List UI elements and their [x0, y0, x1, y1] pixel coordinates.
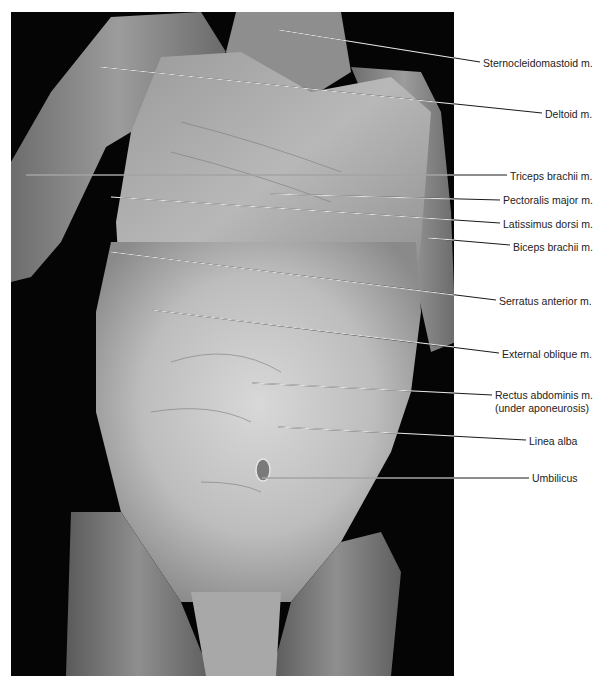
torso-illustration	[11, 12, 454, 676]
label-pectoralis-major: Pectoralis major m.	[503, 194, 593, 206]
label-linea-alba: Linea alba	[529, 435, 577, 447]
label-external-oblique: External oblique m.	[502, 348, 592, 360]
label-biceps-brachii: Biceps brachii m.	[513, 241, 593, 253]
label-rectus-abdominis: Rectus abdominis m.	[495, 389, 593, 401]
label-deltoid: Deltoid m.	[545, 108, 592, 120]
label-latissimus-dorsi: Latissimus dorsi m.	[503, 218, 593, 230]
label-triceps-brachii: Triceps brachii m.	[510, 170, 592, 182]
anatomy-figure: Sternocleidomastoid m. Deltoid m. Tricep…	[0, 0, 608, 685]
label-serratus-anterior: Serratus anterior m.	[499, 295, 592, 307]
umbilicus-mark	[256, 459, 270, 481]
dissection-photograph	[11, 12, 454, 676]
label-sternocleidomastoid: Sternocleidomastoid m.	[483, 57, 593, 69]
label-umbilicus: Umbilicus	[532, 472, 578, 484]
pubic-region	[191, 592, 281, 676]
label-rectus-abdominis-note: (under aponeurosis)	[495, 402, 589, 414]
